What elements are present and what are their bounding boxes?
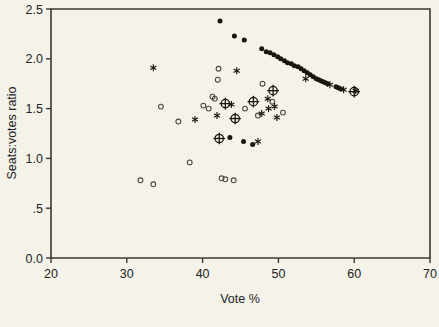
y-tick-label: 0.0	[26, 252, 43, 266]
scatter-plot: 203040506070 0.0.51.01.52.02.5 Vote % Se…	[0, 0, 439, 327]
y-tick-label: 1.5	[26, 102, 43, 116]
marker-filled-circle	[227, 135, 232, 140]
marker-filled-circle	[250, 142, 255, 147]
x-tick-label: 70	[423, 267, 437, 281]
x-tick-label: 20	[44, 267, 58, 281]
y-tick-label: .5	[33, 202, 43, 216]
y-tick-label: 1.0	[26, 152, 43, 166]
plot-background	[0, 0, 439, 327]
marker-filled-circle	[241, 139, 246, 144]
x-axis-label: Vote %	[220, 292, 260, 306]
x-tick-label: 60	[347, 267, 361, 281]
x-tick-label: 50	[271, 267, 285, 281]
marker-filled-circle	[242, 37, 247, 42]
y-tick-label: 2.5	[26, 3, 43, 17]
x-tick-label: 40	[196, 267, 210, 281]
x-tick-label: 30	[120, 267, 134, 281]
marker-filled-circle	[218, 18, 223, 23]
y-tick-label: 2.0	[26, 52, 43, 66]
chart-container: 203040506070 0.0.51.01.52.02.5 Vote % Se…	[0, 0, 439, 327]
marker-filled-circle	[232, 33, 237, 38]
y-axis-label: Seats:votes ratio	[5, 86, 19, 179]
marker-filled-circle	[259, 46, 264, 51]
